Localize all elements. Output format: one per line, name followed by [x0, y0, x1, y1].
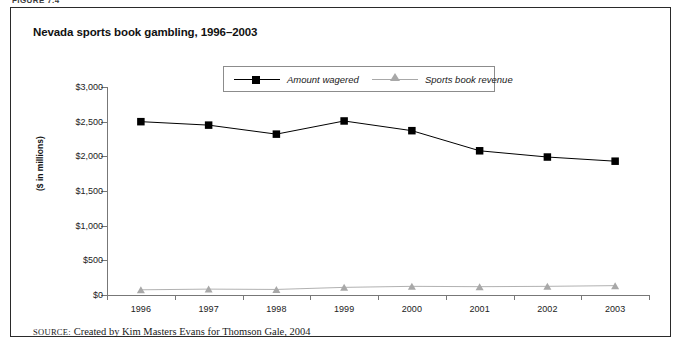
x-tick-label-1997: 1997 [199, 304, 219, 314]
data-point-marker [476, 147, 484, 155]
y-tick-label: $1,500 [75, 186, 103, 196]
x-tick-mark [310, 295, 311, 300]
legend-line-amount-wagered [234, 79, 280, 80]
source-note: SOURCE: Created by Kim Masters Evans for… [33, 326, 311, 337]
x-tick-label-2001: 2001 [470, 304, 490, 314]
x-tick-label-2002: 2002 [537, 304, 557, 314]
x-tick-label-2003: 2003 [605, 304, 625, 314]
legend-line-sports-book-revenue [372, 79, 418, 80]
x-tick-mark [107, 295, 108, 300]
data-point-marker [408, 127, 416, 134]
y-tick-label: $0 [93, 290, 103, 300]
y-axis-title: ($ in millions) [35, 136, 45, 191]
x-tick-label-1998: 1998 [266, 304, 286, 314]
series-graphics [107, 87, 649, 295]
data-point-marker [611, 157, 619, 165]
legend-label-sports-book-revenue: Sports book revenue [425, 74, 513, 85]
y-tick-label: $3,000 [75, 82, 103, 92]
data-point-marker [137, 118, 145, 126]
data-point-marker [340, 117, 348, 125]
x-tick-label-1996: 1996 [131, 304, 151, 314]
x-tick-mark [243, 295, 244, 300]
legend-label-amount-wagered: Amount wagered [287, 74, 359, 85]
chart-title: Nevada sports book gambling, 1996–2003 [33, 26, 257, 38]
x-tick-mark [175, 295, 176, 300]
x-tick-label-2000: 2000 [402, 304, 422, 314]
y-tick-label: $500 [83, 255, 103, 265]
figure-container: FIGURE 7.4 Nevada sports book gambling, … [0, 0, 683, 347]
x-tick-mark [514, 295, 515, 300]
source-prefix: SOURCE: [33, 327, 71, 337]
figure-frame: Nevada sports book gambling, 1996–2003 A… [10, 7, 671, 337]
x-tick-mark [378, 295, 379, 300]
triangle-marker-icon [390, 73, 400, 81]
data-point-marker [544, 153, 552, 161]
square-marker-icon [252, 76, 260, 84]
plot-area [107, 87, 649, 295]
source-text: Created by Kim Masters Evans for Thomson… [74, 326, 311, 337]
x-tick-mark [581, 295, 582, 300]
y-tick-label: $2,500 [75, 117, 103, 127]
figure-number-label: FIGURE 7.4 [12, 0, 60, 4]
x-tick-mark [446, 295, 447, 300]
data-point-marker [205, 121, 213, 129]
y-tick-label: $1,000 [75, 221, 103, 231]
data-point-marker [273, 130, 281, 138]
y-tick-label: $2,000 [75, 151, 103, 161]
x-tick-mark [649, 295, 650, 300]
x-tick-label-1999: 1999 [334, 304, 354, 314]
